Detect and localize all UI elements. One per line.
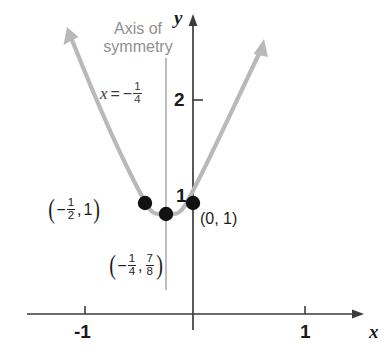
equation-fraction-denominator: 4 bbox=[133, 93, 141, 106]
point-label-vertex-open-paren: ( bbox=[109, 251, 116, 279]
point-label-vertex-close-paren: ) bbox=[156, 251, 163, 279]
point-label-vertex-y-denominator: 8 bbox=[146, 265, 154, 278]
point-label-vertex-y-fraction: 7 8 bbox=[146, 253, 154, 277]
point-label-y-intercept: (0, 1) bbox=[200, 211, 237, 227]
point-vertex bbox=[159, 207, 173, 221]
point-label-left-comma: , bbox=[77, 202, 81, 218]
point-left bbox=[138, 196, 152, 210]
x-tick-label-minus-1: -1 bbox=[74, 322, 91, 341]
point-y-intercept bbox=[186, 196, 200, 210]
graph-canvas bbox=[0, 0, 389, 355]
y-axis-arrowhead bbox=[189, 14, 198, 26]
y-axis-label: y bbox=[174, 8, 182, 27]
point-label-vertex-minus: − bbox=[117, 258, 126, 274]
axis-of-symmetry-label: Axis of symmetry bbox=[98, 20, 178, 57]
equation-fraction-numerator: 1 bbox=[133, 81, 141, 93]
point-label-vertex: ( − 1 4 , 7 8 ) bbox=[108, 252, 164, 280]
point-label-vertex-x-fraction: 1 4 bbox=[128, 253, 136, 277]
point-label-vertex-comma: , bbox=[138, 258, 142, 274]
axis-of-symmetry-label-line1: Axis of bbox=[98, 20, 178, 38]
point-label-left-denominator: 2 bbox=[67, 209, 75, 222]
x-tick-label-1: 1 bbox=[300, 322, 311, 341]
point-label-left-y: 1 bbox=[84, 202, 93, 218]
point-label-vertex-x-denominator: 4 bbox=[128, 265, 136, 278]
point-label-left-minus: − bbox=[56, 202, 65, 218]
equation-fraction: 1 4 bbox=[133, 81, 141, 105]
x-axis-arrowhead bbox=[352, 310, 364, 319]
parabola-figure: Axis of symmetry x = − 1 4 2 1 -1 1 y x … bbox=[0, 0, 389, 355]
point-label-vertex-x-numerator: 1 bbox=[128, 253, 136, 265]
x-axis-label: x bbox=[369, 322, 379, 341]
equation-variable: x bbox=[100, 86, 107, 103]
equation-minus-sign: − bbox=[123, 86, 132, 102]
equation-equals: = bbox=[110, 86, 119, 102]
point-label-left-open-paren: ( bbox=[48, 195, 55, 223]
axis-of-symmetry-equation: x = − 1 4 bbox=[100, 82, 143, 106]
parabola-right-arrowhead bbox=[254, 39, 269, 57]
y-tick-label-1: 1 bbox=[176, 186, 187, 205]
point-label-left-numerator: 1 bbox=[67, 197, 75, 209]
point-label-vertex-y-numerator: 7 bbox=[146, 253, 154, 265]
point-label-left-close-paren: ) bbox=[94, 195, 101, 223]
y-tick-label-2: 2 bbox=[174, 90, 185, 109]
point-label-left-fraction: 1 2 bbox=[67, 197, 75, 221]
point-label-left: ( − 1 2 , 1 ) bbox=[47, 196, 102, 224]
axis-of-symmetry-label-line2: symmetry bbox=[98, 38, 178, 56]
